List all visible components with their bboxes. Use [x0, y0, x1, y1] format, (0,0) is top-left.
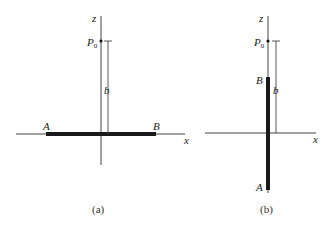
- x-axis-label: x: [183, 134, 189, 146]
- point-p0: [266, 39, 269, 42]
- p0-label: P0: [86, 36, 98, 50]
- rod-ab: [266, 77, 270, 190]
- rod-end-a-label: A: [255, 181, 263, 193]
- panel-a: z x P0 b A B (a): [16, 12, 189, 216]
- rod-end-a-label: A: [42, 120, 50, 132]
- z-axis-label: z: [258, 12, 264, 24]
- diagram-canvas: z x P0 b A B (a) z x P0 b B A (b): [0, 0, 332, 228]
- point-p0: [99, 39, 102, 42]
- panel-b: z x P0 b B A (b): [205, 12, 318, 216]
- rod-ab: [46, 132, 156, 136]
- caption-b: (b): [260, 203, 273, 216]
- x-axis-label: x: [312, 133, 318, 145]
- rod-end-b-label: B: [256, 74, 263, 86]
- rod-end-b-label: B: [153, 120, 160, 132]
- caption-a: (a): [92, 203, 105, 216]
- distance-b-label: b: [104, 84, 110, 96]
- z-axis-label: z: [91, 12, 97, 24]
- p0-label: P0: [253, 36, 265, 50]
- distance-b-label: b: [273, 84, 279, 96]
